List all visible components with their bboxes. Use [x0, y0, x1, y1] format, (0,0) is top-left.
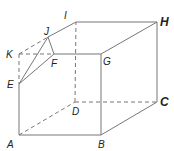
label-e: E	[7, 79, 14, 90]
label-d: D	[72, 106, 79, 117]
label-j: J	[43, 26, 50, 37]
label-i: I	[64, 10, 67, 21]
label-b: B	[98, 139, 105, 150]
hidden-edge-ad	[19, 102, 75, 135]
edge-ef	[19, 54, 54, 84]
edge-je	[19, 37, 48, 84]
cube-diagram: A B C D E F G H I J K	[0, 0, 174, 151]
hidden-edge-kj	[19, 37, 48, 54]
edge-bc	[101, 102, 157, 135]
edge-ij	[48, 22, 76, 37]
label-c: C	[160, 95, 169, 109]
label-g: G	[103, 56, 111, 67]
label-h: H	[160, 15, 169, 29]
edge-fj	[48, 37, 54, 54]
label-f: F	[51, 58, 58, 69]
label-a: A	[6, 139, 14, 150]
edge-gh	[101, 22, 157, 54]
hidden-edge-di	[75, 22, 76, 102]
label-k: K	[6, 49, 14, 60]
